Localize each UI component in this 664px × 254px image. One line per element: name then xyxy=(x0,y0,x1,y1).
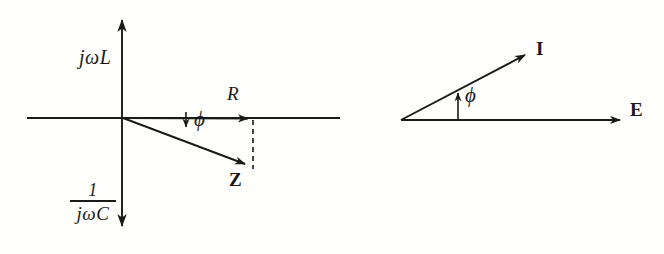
figure-container: jωL 1 jωC R ϕ Z ϕ I E xyxy=(0,0,664,254)
angle-label-phi-left: ϕ xyxy=(194,109,205,130)
phasor-diagram-group xyxy=(401,55,620,120)
axis-label-jwl: jωL xyxy=(79,47,111,67)
impedance-label-Z: Z xyxy=(229,170,242,189)
current-vector-I xyxy=(401,55,525,120)
voltage-label-E: E xyxy=(630,100,643,119)
axis-label-one-over-jwc: 1 jωC xyxy=(70,181,116,223)
impedance-vector-Z xyxy=(123,118,245,164)
resistance-label-R: R xyxy=(227,84,239,103)
angle-label-phi-right: ϕ xyxy=(465,85,476,106)
current-label-I: I xyxy=(536,39,543,58)
fraction-denominator: jωC xyxy=(70,202,116,223)
fraction-numerator: 1 xyxy=(70,181,116,200)
